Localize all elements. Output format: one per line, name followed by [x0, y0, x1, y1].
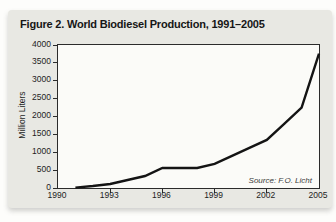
- y-tick-label: 1500: [5, 129, 51, 138]
- biodiesel-line-chart: [58, 45, 319, 188]
- y-tick-label: 3500: [5, 57, 51, 66]
- y-tick-mark: [53, 45, 57, 46]
- source-note: Source: F.O. Licht: [249, 176, 312, 185]
- x-tick-label: 2002: [253, 190, 279, 200]
- y-tick-label: 1000: [5, 147, 51, 156]
- figure-title: Figure 2. World Biodiesel Production, 19…: [20, 18, 265, 30]
- x-tick-label: 1990: [44, 190, 70, 200]
- plot-area: Source: F.O. Licht: [57, 44, 320, 189]
- figure-panel: Figure 2. World Biodiesel Production, 19…: [8, 10, 332, 208]
- x-tick-label: 1996: [148, 190, 174, 200]
- y-tick-mark: [53, 62, 57, 63]
- y-tick-mark: [53, 116, 57, 117]
- y-tick-label: 500: [5, 165, 51, 174]
- y-tick-mark: [53, 188, 57, 189]
- y-tick-label: 4000: [5, 40, 51, 49]
- x-axis: 199019931996199920022005: [57, 190, 318, 202]
- y-tick-mark: [53, 170, 57, 171]
- y-tick-mark: [53, 134, 57, 135]
- x-tick-label: 2005: [305, 190, 331, 200]
- y-tick-mark: [53, 152, 57, 153]
- y-tick-mark: [53, 80, 57, 81]
- x-tick-label: 1999: [201, 190, 227, 200]
- x-tick-label: 1993: [96, 190, 122, 200]
- y-tick-label: 2000: [5, 111, 51, 120]
- y-axis: 05001000150020002500300035004000: [8, 44, 54, 187]
- y-tick-mark: [53, 98, 57, 99]
- y-tick-label: 3000: [5, 75, 51, 84]
- y-tick-label: 2500: [5, 93, 51, 102]
- biodiesel-production-series: [75, 54, 319, 188]
